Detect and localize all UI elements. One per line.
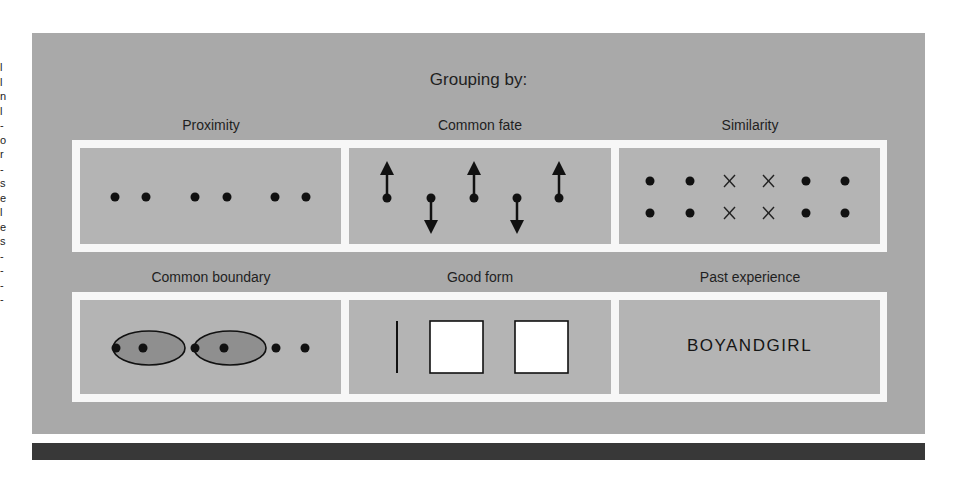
row-2-frame: BOYANDGIRL (72, 292, 887, 402)
common-fate-arrows-icon (349, 148, 611, 244)
figure-title: Grouping by: (32, 70, 925, 90)
label-similarity: Similarity (619, 117, 881, 133)
past-experience-word: BOYANDGIRL (619, 336, 880, 356)
cell-common-fate (349, 148, 611, 244)
proximity-dots-icon (80, 148, 341, 244)
cell-similarity (619, 148, 880, 244)
row-1-frame (72, 140, 887, 252)
figure-panel: Grouping by: Proximity Common fate Simil… (32, 33, 925, 434)
good-form-squares-icon (349, 300, 611, 394)
cell-proximity (80, 148, 341, 244)
cell-good-form (349, 300, 611, 394)
label-good-form: Good form (349, 269, 611, 285)
label-proximity: Proximity (80, 117, 342, 133)
label-common-boundary: Common boundary (80, 269, 342, 285)
bottom-rule-bar (32, 443, 925, 460)
label-past-experience: Past experience (619, 269, 881, 285)
cropped-page-text: lln l-o r-s ele s-- -- (0, 60, 8, 307)
cell-common-boundary (80, 300, 341, 394)
label-common-fate: Common fate (349, 117, 611, 133)
common-boundary-ellipses-icon (80, 300, 341, 394)
similarity-grid-icon (619, 148, 880, 244)
cell-past-experience: BOYANDGIRL (619, 300, 880, 394)
